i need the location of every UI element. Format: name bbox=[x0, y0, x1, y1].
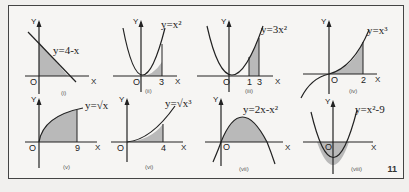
x-axis-label: X bbox=[275, 78, 280, 86]
graph-panel-iii: Y y=3x² O 1 3 X (iii) bbox=[205, 12, 303, 98]
tick-label: 3 bbox=[159, 78, 164, 87]
x-axis-label: X bbox=[375, 76, 380, 84]
tick-label: 1 bbox=[247, 78, 252, 87]
panel-number: (ii) bbox=[145, 88, 152, 94]
graph-panel-i: Y y=4-x O X (i) bbox=[13, 12, 111, 98]
y-axis-label: Y bbox=[119, 96, 124, 104]
origin-label: O bbox=[133, 78, 140, 87]
panel-number: (v) bbox=[63, 164, 70, 170]
x-axis-label: X bbox=[371, 144, 376, 152]
equation-label: y=3x² bbox=[261, 24, 287, 35]
panel-number: (iii) bbox=[245, 88, 253, 94]
origin-label: O bbox=[223, 143, 230, 152]
origin-label: O bbox=[29, 144, 36, 153]
graph-panel-ii: Y y=x² O 3 X (ii) bbox=[107, 12, 205, 98]
y-axis-label: Y bbox=[31, 96, 36, 104]
y-axis-label: Y bbox=[133, 18, 138, 26]
x-axis-label: X bbox=[181, 144, 186, 152]
tick-label: 2 bbox=[361, 76, 366, 85]
x-axis-label: X bbox=[95, 144, 100, 152]
equation-label: y=x² bbox=[161, 19, 182, 30]
panel-number: (vi) bbox=[145, 164, 153, 170]
panel-number: (vii) bbox=[239, 166, 249, 172]
tick-label: 4 bbox=[161, 144, 166, 153]
y-axis-label: Y bbox=[213, 96, 218, 104]
equation-label: y=√x bbox=[85, 100, 108, 111]
equation-label: y=2x-x² bbox=[243, 104, 278, 115]
origin-label: O bbox=[325, 143, 332, 152]
figure-frame: Y y=4-x O X (i) Y y=x² O 3 X (ii) bbox=[8, 5, 404, 179]
panel-number: (viii) bbox=[351, 166, 362, 172]
graph-panel-v: Y y=√x O 9 X (v) bbox=[13, 96, 111, 182]
origin-label: O bbox=[331, 76, 338, 85]
y-axis-label: Y bbox=[321, 18, 326, 26]
equation-label: y=4-x bbox=[53, 45, 79, 56]
graph-panel-viii: Y y=x²-9 O X (viii) bbox=[303, 96, 401, 182]
equation-label: y=√x³ bbox=[165, 98, 192, 109]
x-axis-label: X bbox=[175, 78, 180, 86]
graph-panel-vi: Y y=√x³ O 4 X (vi) bbox=[107, 96, 205, 182]
panel-number: (iv) bbox=[349, 88, 357, 94]
origin-label: O bbox=[223, 78, 230, 87]
tick-label: 3 bbox=[257, 78, 262, 87]
y-axis-label: Y bbox=[325, 98, 330, 106]
tick-label: 9 bbox=[75, 144, 80, 153]
graph-panel-iv: Y y=x³ O 2 X (iv) bbox=[303, 12, 401, 98]
origin-label: O bbox=[30, 78, 37, 87]
x-axis-label: X bbox=[91, 78, 96, 86]
x-axis-label: X bbox=[285, 144, 290, 152]
graph-panel-vii: Y y=2x-x² O X (vii) bbox=[205, 96, 303, 182]
equation-label: y=x²-9 bbox=[355, 104, 385, 115]
origin-label: O bbox=[117, 144, 124, 153]
y-axis-label: Y bbox=[221, 18, 226, 26]
y-axis-label: Y bbox=[31, 18, 36, 26]
page-number: 11 bbox=[387, 164, 397, 174]
equation-label: y=x³ bbox=[367, 25, 388, 36]
